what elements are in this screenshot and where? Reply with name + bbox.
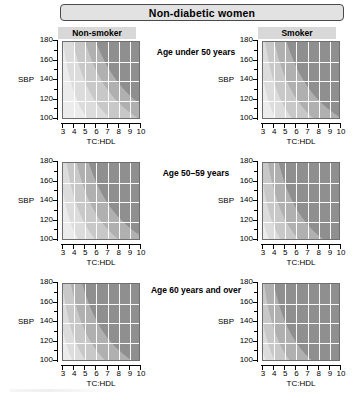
x-axis-tick-label: 4 — [72, 249, 76, 257]
x-axis-tick-label: 7 — [105, 249, 109, 257]
gridline-vertical — [96, 42, 97, 118]
gridline-vertical — [74, 42, 75, 118]
y-axis-tick — [253, 181, 258, 182]
y-axis-tick — [253, 79, 258, 80]
y-axis-tick-label: 160 — [40, 56, 53, 64]
y-axis-tick-label: 180 — [40, 36, 53, 44]
gridline-vertical — [130, 42, 131, 118]
y-axis-tick-label: 160 — [40, 177, 53, 185]
x-axis-tick-label: 9 — [328, 249, 332, 257]
y-axis-tick-label: 180 — [40, 157, 53, 165]
x-axis-tick-label: 5 — [83, 128, 87, 136]
gridline-horizontal — [63, 343, 139, 344]
risk-plot-area — [262, 41, 340, 119]
gridline-vertical — [319, 284, 320, 360]
x-axis-tick-label: 4 — [272, 370, 276, 378]
x-axis-tick-label: 9 — [328, 128, 332, 136]
gridline-horizontal — [63, 202, 139, 203]
y-axis-tick — [53, 181, 58, 182]
x-axis-tick-label: 9 — [128, 128, 132, 136]
y-axis-tick-label: 180 — [240, 36, 253, 44]
y-axis-tick — [253, 161, 258, 162]
gridline-vertical — [108, 284, 109, 360]
x-axis-tick-label: 3 — [261, 370, 265, 378]
figure-title-banner: Non-diabetic women — [60, 4, 344, 21]
y-axis-tick — [253, 302, 258, 303]
y-axis-minor-tick — [254, 292, 258, 293]
y-axis-minor-tick — [254, 350, 258, 351]
y-axis-tick — [253, 282, 258, 283]
gridline-vertical — [130, 284, 131, 360]
y-axis-tick-label: 140 — [240, 196, 253, 204]
gridline-vertical — [285, 163, 286, 239]
gridline-vertical — [330, 163, 331, 239]
risk-plot-area — [62, 41, 140, 119]
y-axis-minor-tick — [254, 210, 258, 211]
y-axis-tick — [53, 341, 58, 342]
x-axis-tick-label: 6 — [294, 128, 298, 136]
x-axis-tick-label: 5 — [283, 249, 287, 257]
gridline-vertical — [85, 284, 86, 360]
y-axis-minor-tick — [254, 190, 258, 191]
gridline-vertical — [85, 42, 86, 118]
gridline-vertical — [330, 284, 331, 360]
x-axis-tick-label: 8 — [116, 249, 120, 257]
x-axis-tick-label: 6 — [94, 249, 98, 257]
y-axis-title: SBP — [212, 196, 234, 205]
x-axis-tick-label: 3 — [61, 249, 65, 257]
y-axis-tick-label: 100 — [40, 356, 53, 364]
y-axis-minor-tick — [54, 69, 58, 70]
y-axis-tick — [253, 60, 258, 61]
y-axis-minor-tick — [254, 89, 258, 90]
y-axis-minor-tick — [254, 69, 258, 70]
page-edge-artifact — [10, 389, 100, 392]
y-axis-minor-tick — [54, 311, 58, 312]
y-axis-tick — [53, 282, 58, 283]
y-axis-tick — [53, 99, 58, 100]
y-axis-tick-label: 160 — [240, 56, 253, 64]
column-header-smoker: Smoker — [258, 27, 336, 39]
y-axis: 100120140160180SBP — [57, 161, 63, 241]
x-axis-tick-label: 9 — [128, 249, 132, 257]
x-axis-tick-label: 7 — [105, 370, 109, 378]
y-axis-tick — [53, 161, 58, 162]
x-axis-tick-label: 3 — [261, 128, 265, 136]
gridline-horizontal — [63, 62, 139, 63]
x-axis-tick-label: 10 — [137, 249, 146, 257]
y-axis-tick — [53, 360, 58, 361]
gridline-vertical — [308, 163, 309, 239]
y-axis-minor-tick — [54, 210, 58, 211]
y-axis-minor-tick — [254, 50, 258, 51]
x-axis-tick-label: 6 — [294, 370, 298, 378]
y-axis-tick-label: 120 — [40, 95, 53, 103]
y-axis-tick — [53, 79, 58, 80]
gridline-vertical — [274, 42, 275, 118]
column-header-non-smoker: Non-smoker — [58, 27, 136, 39]
y-axis-title: SBP — [12, 196, 34, 205]
figure-title: Non-diabetic women — [149, 7, 255, 19]
y-axis-minor-tick — [254, 311, 258, 312]
gridline-vertical — [108, 163, 109, 239]
gridline-vertical — [285, 42, 286, 118]
y-axis: 100120140160180SBP — [257, 161, 263, 241]
x-axis-tick-label: 7 — [105, 128, 109, 136]
gridline-vertical — [308, 42, 309, 118]
x-axis-tick-label: 6 — [94, 128, 98, 136]
y-axis-title: SBP — [12, 75, 34, 84]
gridline-vertical — [130, 163, 131, 239]
y-axis-tick — [253, 360, 258, 361]
y-axis-tick-label: 140 — [240, 75, 253, 83]
y-axis-tick — [253, 99, 258, 100]
gridline-vertical — [85, 163, 86, 239]
x-axis-tick-label: 4 — [72, 128, 76, 136]
y-axis-tick — [53, 118, 58, 119]
y-axis-tick-label: 120 — [40, 337, 53, 345]
y-axis-title: SBP — [12, 317, 34, 326]
gridline-horizontal — [263, 101, 339, 102]
y-axis-minor-tick — [254, 229, 258, 230]
x-axis-tick-label: 10 — [137, 370, 146, 378]
x-axis-tick-label: 8 — [316, 370, 320, 378]
x-axis-title: TC:HDL — [87, 137, 116, 146]
y-axis-minor-tick — [54, 292, 58, 293]
x-axis-tick-label: 4 — [272, 128, 276, 136]
